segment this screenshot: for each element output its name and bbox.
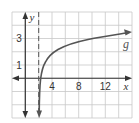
graph-of-g: 4 8 12 3 1 x y g (0, 0, 139, 123)
y-axis-up-arrow-icon (23, 12, 29, 19)
x-tick-12: 12 (100, 81, 112, 92)
curve-label-g: g (123, 37, 129, 51)
curve-start-arrow-icon (36, 111, 42, 119)
x-axis-label: x (123, 80, 129, 92)
grid (12, 12, 132, 118)
y-tick-3: 3 (16, 33, 22, 44)
x-tick-4: 4 (49, 81, 55, 92)
x-axis-left-arrow-icon (12, 76, 19, 82)
x-tick-8: 8 (76, 81, 82, 92)
y-tick-1: 1 (16, 60, 22, 71)
y-axis-down-arrow-icon (23, 111, 29, 118)
y-axis-label: y (29, 11, 35, 23)
x-axis (12, 76, 132, 82)
curve-end-arrow-icon (124, 29, 132, 35)
